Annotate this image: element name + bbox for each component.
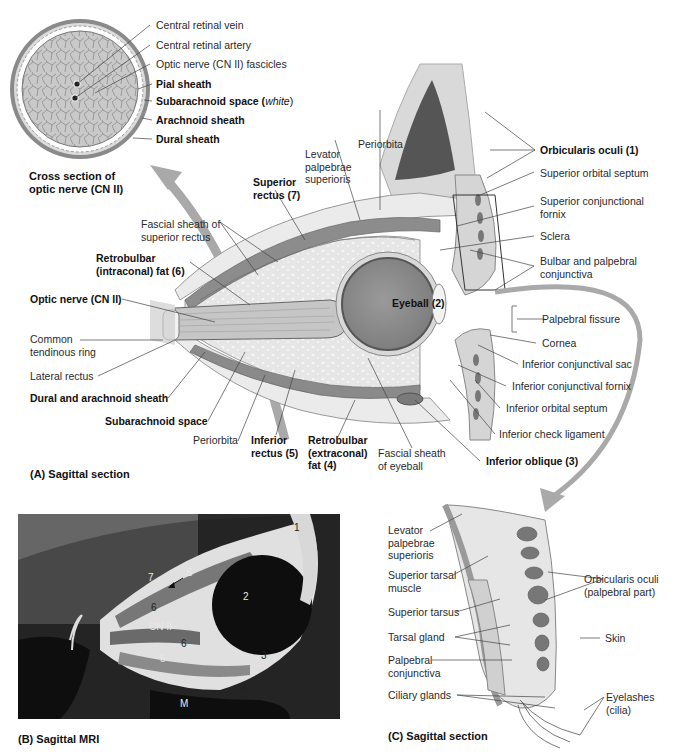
label-inferior-rectus: Inferiorrectus (5) (251, 434, 298, 459)
label-central-retinal-vein: Central retinal vein (156, 19, 244, 32)
label-line: Bulbar and palpebral (540, 255, 637, 268)
label-bulbar-palpebral-conjunctiva: Bulbar and palpebralconjunctiva (540, 255, 637, 280)
label-line: palpebrae (388, 537, 435, 550)
label-fascial-sheath-superior-rectus: Fascial sheath ofsuperior rectus (141, 218, 220, 243)
label-line: fat (4) (308, 459, 368, 472)
label-italic: white (265, 95, 290, 107)
label-line: rectus (7) (253, 189, 300, 202)
label-line: Superior (253, 176, 300, 189)
label-line: Superior conjunctional (540, 195, 644, 208)
label-line: Retrobulbar (96, 252, 185, 265)
label-inferior-conjunctival-sac: Inferior conjunctival sac (522, 358, 632, 371)
label-line: (intraconal) fat (6) (96, 265, 185, 278)
panel-b-caption: (B) Sagittal MRI (18, 733, 99, 745)
optic-nerve-cross-section (10, 19, 152, 159)
label-periorbita-top: Periorbita (358, 138, 403, 151)
label-line: Orbicularis oculi (584, 573, 659, 586)
label-line: fornix (540, 208, 644, 221)
mri-label-7: 7 (148, 572, 154, 583)
panel-c-caption: (C) Sagittal section (388, 730, 488, 742)
label-c-skin: Skin (605, 632, 625, 645)
label-text: ) (290, 95, 294, 107)
mri-label-cn2: CN II (149, 621, 172, 632)
label-dural-sheath: Dural sheath (156, 133, 220, 146)
mri-label-6a: 6 (151, 602, 157, 613)
label-line: Palpebral (388, 654, 441, 667)
label-superior-orbital-septum: Superior orbital septum (540, 167, 649, 180)
label-line: rectus (5) (251, 447, 298, 460)
label-fascial-sheath-eyeball: Fascial sheathof eyeball (378, 447, 446, 472)
label-inferior-conjunctival-fornix: Inferior conjunctival fornix (512, 380, 631, 393)
label-line: Levator (388, 524, 435, 537)
label-optic-nerve: Optic nerve (CN II) (30, 293, 122, 306)
eyelid-sagittal-section (445, 505, 580, 748)
label-line: Superior tarsal (388, 569, 456, 582)
label-line: conjunctiva (540, 268, 637, 281)
label-line: palpebrae (305, 161, 352, 174)
label-line: (extraconal) (308, 447, 368, 460)
label-c-palpebral-conjunctiva: Palpebralconjunctiva (388, 654, 441, 679)
label-lateral-rectus: Lateral rectus (30, 370, 94, 383)
label-line: of eyeball (378, 460, 446, 473)
label-line: Retrobulbar (308, 434, 368, 447)
caption-line: Cross section of (29, 170, 123, 183)
label-cornea: Cornea (542, 337, 576, 350)
label-c-ciliary-glands: Ciliary glands (388, 689, 451, 702)
label-arachnoid-sheath: Arachnoid sheath (156, 114, 245, 127)
label-line: (palpebral part) (584, 586, 659, 599)
label-eyeball: Eyeball (2) (392, 297, 445, 310)
label-line: superioris (388, 549, 435, 562)
mri-label-5: 5 (160, 653, 166, 664)
label-inferior-orbital-septum: Inferior orbital septum (506, 402, 608, 415)
label-line: Fascial sheath (378, 447, 446, 460)
label-line: superior rectus (141, 231, 220, 244)
label-optic-nerve-fascicles: Optic nerve (CN II) fascicles (156, 58, 287, 71)
label-c-superior-tarsal-muscle: Superior tarsalmuscle (388, 569, 456, 594)
label-central-retinal-artery: Central retinal artery (156, 39, 251, 52)
label-subarachnoid-space-cs: Subarachnoid space (white) (156, 95, 293, 108)
label-periorbita-bottom: Periorbita (193, 434, 238, 447)
label-line: Fascial sheath of (141, 218, 220, 231)
mri-label-6b: 6 (181, 638, 187, 649)
mri-label-3: 3 (261, 650, 267, 661)
mri-label-1: 1 (294, 522, 300, 533)
label-orbicularis-oculi: Orbicularis oculi (1) (540, 144, 639, 157)
mri-image (18, 514, 340, 719)
label-palpebral-fissure: Palpebral fissure (542, 313, 620, 326)
label-c-eyelashes: Eyelashes(cilia) (606, 691, 654, 716)
label-inferior-oblique: Inferior oblique (3) (486, 455, 578, 468)
cross-section-caption: Cross section ofoptic nerve (CN II) (29, 170, 123, 196)
mri-label-2: 2 (243, 591, 249, 602)
caption-line: optic nerve (CN II) (29, 183, 123, 196)
label-line: Common (30, 333, 96, 346)
label-line: superioris (305, 173, 352, 186)
mri-label-m: M (180, 698, 188, 709)
anatomy-illustration (0, 0, 676, 754)
label-sclera: Sclera (540, 230, 570, 243)
label-c-levator: Levatorpalpebraesuperioris (388, 524, 435, 562)
mri-label-4: 4 (242, 683, 248, 694)
label-c-orbicularis-oculi: Orbicularis oculi(palpebral part) (584, 573, 659, 598)
label-pial-sheath: Pial sheath (156, 78, 211, 91)
label-levator-palpebrae: Levatorpalpebraesuperioris (305, 148, 352, 186)
label-line: (cilia) (606, 704, 654, 717)
label-retrobulbar-intraconal-fat: Retrobulbar(intraconal) fat (6) (96, 252, 185, 277)
label-line: Levator (305, 148, 352, 161)
label-c-tarsal-gland: Tarsal gland (388, 631, 445, 644)
label-line: tendinous ring (30, 346, 96, 359)
label-inferior-check-ligament: Inferior check ligament (499, 428, 605, 441)
label-dural-arachnoid-sheath: Dural and arachnoid sheath (30, 392, 168, 405)
mri-label-s: S (186, 567, 193, 578)
label-c-superior-tarsus: Superior tarsus (388, 606, 459, 619)
label-superior-conjunctional-fornix: Superior conjunctionalfornix (540, 195, 644, 220)
label-retrobulbar-extraconal-fat: Retrobulbar(extraconal)fat (4) (308, 434, 368, 472)
label-common-tendinous-ring: Commontendinous ring (30, 333, 96, 358)
label-superior-rectus: Superiorrectus (7) (253, 176, 300, 201)
label-subarachnoid-space: Subarachnoid space (105, 415, 208, 428)
label-line: Eyelashes (606, 691, 654, 704)
panel-a-caption: (A) Sagittal section (30, 468, 130, 480)
label-line: Inferior (251, 434, 298, 447)
label-line: muscle (388, 582, 456, 595)
label-text: Subarachnoid space ( (156, 95, 265, 107)
label-line: conjunctiva (388, 667, 441, 680)
